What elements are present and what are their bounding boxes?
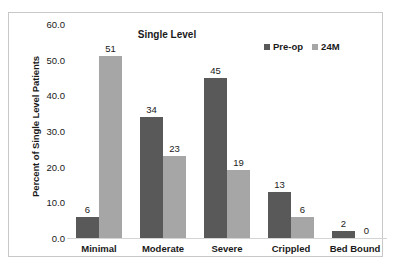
bar-value-label: 23 <box>169 143 180 154</box>
y-axis-tick-label: 50.0 <box>29 56 65 66</box>
x-axis-baseline <box>67 238 387 239</box>
bar-value-label: 34 <box>146 104 157 115</box>
plot-area: 6513423451913620 <box>67 25 387 239</box>
bar-group: 651 <box>76 24 122 238</box>
bar-slot: 2 <box>332 231 355 238</box>
bar-slot: 19 <box>227 170 250 238</box>
bar-slot: 13 <box>268 192 291 238</box>
x-axis-tick-label: Crippled <box>259 243 323 254</box>
x-axis-tick-label: Bed Bound <box>323 243 387 254</box>
bar-value-label: 51 <box>105 43 116 54</box>
bar-slot: 6 <box>291 217 314 238</box>
bar-rect[interactable]: 51 <box>99 56 122 238</box>
bar-rect[interactable]: 34 <box>140 117 163 238</box>
bar-slot: 45 <box>204 78 227 239</box>
x-axis-tick-label: Minimal <box>67 243 131 254</box>
x-axis-category-labels: MinimalModerateSevereCrippledBed Bound <box>67 243 387 259</box>
bar-group: 4519 <box>204 24 250 238</box>
bar-value-label: 19 <box>233 157 244 168</box>
bar-slot: 51 <box>99 56 122 238</box>
bar-rect[interactable]: 2 <box>332 231 355 238</box>
bar-rect[interactable]: 45 <box>204 78 227 239</box>
bar-rect[interactable]: 19 <box>227 170 250 238</box>
bar-group: 3423 <box>140 24 186 238</box>
x-axis-tick-label: Moderate <box>131 243 195 254</box>
bar-rect[interactable]: 13 <box>268 192 291 238</box>
bar-value-label: 0 <box>364 225 369 236</box>
y-axis-tick-label: 20.0 <box>29 163 65 173</box>
bar-rect[interactable]: 6 <box>76 217 99 238</box>
bar-group: 136 <box>268 24 314 238</box>
bar-slot: 34 <box>140 117 163 238</box>
bar-value-label: 45 <box>210 65 221 76</box>
bar-chart-figure: Percent of Single Level Patients 0.010.0… <box>0 0 397 273</box>
y-axis-tick-label: 10.0 <box>29 198 65 208</box>
y-axis-tick-label: 60.0 <box>29 20 65 30</box>
bar-value-label: 2 <box>341 218 346 229</box>
bar-value-label: 6 <box>300 204 305 215</box>
x-axis-tick-label: Severe <box>195 243 259 254</box>
y-axis-tick-label: 0.0 <box>29 234 65 244</box>
y-axis-tick-label: 40.0 <box>29 91 65 101</box>
chart-frame: Percent of Single Level Patients 0.010.0… <box>8 12 383 257</box>
bar-group: 20 <box>332 24 378 238</box>
bar-rect[interactable]: 23 <box>163 156 186 238</box>
bar-value-label: 6 <box>85 204 90 215</box>
bar-value-label: 13 <box>274 179 285 190</box>
y-axis-tick-labels: 0.010.020.030.040.050.060.0 <box>29 25 65 239</box>
bar-slot: 6 <box>76 217 99 238</box>
bar-slot: 23 <box>163 156 186 238</box>
bar-rect[interactable]: 6 <box>291 217 314 238</box>
y-axis-tick-label: 30.0 <box>29 127 65 137</box>
